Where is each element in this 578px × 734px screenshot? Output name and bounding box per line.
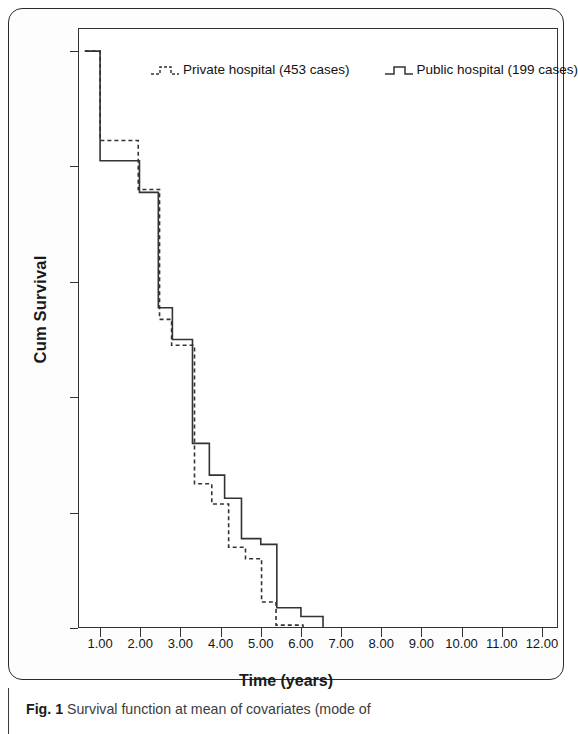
y-tick-mark xyxy=(70,166,78,167)
y-tick-mark xyxy=(70,51,78,52)
x-tick-mark xyxy=(502,628,503,637)
x-tick-mark xyxy=(421,628,422,637)
x-tick-mark xyxy=(301,628,302,637)
step-line-dashed-icon xyxy=(150,63,180,77)
x-tick-mark xyxy=(341,628,342,637)
x-tick-mark xyxy=(261,628,262,637)
legend-label: Public hospital (199 cases) xyxy=(417,62,578,77)
x-axis-title: Time (years) xyxy=(0,672,572,690)
figure-caption-text: Survival function at mean of covariates … xyxy=(67,701,371,717)
figure-caption-label: Fig. 1 xyxy=(26,701,63,717)
legend-entry-public: Public hospital (199 cases) xyxy=(384,62,578,77)
x-tick-mark xyxy=(221,628,222,637)
x-tick-mark xyxy=(462,628,463,637)
y-tick-mark xyxy=(70,628,78,629)
x-tick-label: 12.00 xyxy=(516,636,568,651)
legend-entry-private: Private hospital (453 cases) xyxy=(150,62,350,77)
x-tick-mark xyxy=(381,628,382,637)
x-tick-mark xyxy=(180,628,181,637)
survival-step-chart xyxy=(78,28,558,628)
x-tick-mark xyxy=(542,628,543,637)
figure-caption: Fig. 1 Survival function at mean of cova… xyxy=(26,700,562,718)
y-tick-mark xyxy=(70,282,78,283)
legend-label: Private hospital (453 cases) xyxy=(183,62,350,77)
series-line-public xyxy=(85,51,341,628)
chart-legend: Private hospital (453 cases)Public hospi… xyxy=(150,62,578,77)
plot-area xyxy=(78,28,558,628)
page-gutter-rule xyxy=(8,688,9,734)
series-line-private xyxy=(85,51,502,628)
y-tick-mark xyxy=(70,513,78,514)
step-line-solid-icon xyxy=(384,63,414,77)
y-tick-mark xyxy=(70,397,78,398)
x-tick-mark xyxy=(100,628,101,637)
y-axis-title: Cum Survival xyxy=(31,210,50,410)
x-tick-mark xyxy=(140,628,141,637)
